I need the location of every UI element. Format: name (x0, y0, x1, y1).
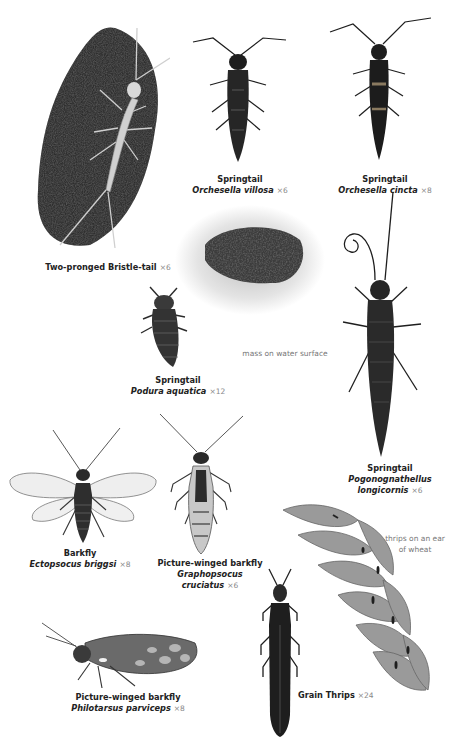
caption-podura-aquatica: Springtail Podura aquatica×12 (128, 375, 228, 397)
podura-aquatica-illustration (135, 285, 195, 370)
caption-philotarsus: Picture-winged barkfly Philotarsus parvi… (58, 692, 198, 714)
common-name: Grain Thrips (298, 690, 355, 700)
common-name: Springtail (180, 174, 300, 185)
latin-name-line2: cruciatus (182, 580, 225, 590)
common-name: Springtail (335, 463, 445, 474)
orchesella-cincta-illustration (325, 14, 435, 164)
magnification: ×6 (227, 581, 238, 590)
caption-orchesella-villosa: Springtail Orchesella villosa×6 (180, 174, 300, 196)
magnification: ×6 (277, 186, 288, 195)
common-name: Two-pronged Bristle-tail (45, 262, 156, 272)
caption-ectopsocus: Barkfly Ectopsocus briggsi×8 (20, 548, 140, 570)
magnification: ×12 (209, 387, 225, 396)
latin-name: Podura aquatica (131, 386, 207, 396)
common-name: Springtail (330, 174, 440, 185)
latin-name: Ectopsocus briggsi (30, 559, 117, 569)
caption-grain-thrips: Grain Thrips×24 (298, 690, 398, 701)
pogonognathellus-illustration (335, 192, 435, 462)
common-name: Springtail (128, 375, 228, 386)
common-name: Picture-winged barkfly (58, 692, 198, 703)
springtail-mass-illustration (175, 205, 325, 315)
latin-name-line1: Pogonognathellus (335, 474, 445, 485)
magnification: ×8 (119, 560, 130, 569)
bristletail-illustration (20, 10, 170, 250)
magnification: ×8 (174, 704, 185, 713)
magnification: ×24 (358, 691, 374, 700)
ectopsocus-illustration (8, 425, 158, 550)
note-thrips-on-wheat: thrips on an ear of wheat (380, 533, 450, 555)
latin-name: Philotarsus parviceps (71, 703, 171, 713)
orchesella-villosa-illustration (188, 30, 288, 170)
latin-name: Orchesella villosa (192, 185, 273, 195)
note-line2: of wheat (380, 544, 450, 555)
philotarsus-illustration (40, 618, 200, 688)
note-line1: thrips on an ear (380, 533, 450, 544)
magnification: ×6 (160, 263, 171, 272)
graphopsocus-illustration (155, 412, 245, 557)
grain-thrips-illustration (255, 565, 305, 740)
note-mass-on-water: mass on water surface (225, 348, 345, 359)
common-name: Barkfly (20, 548, 140, 559)
